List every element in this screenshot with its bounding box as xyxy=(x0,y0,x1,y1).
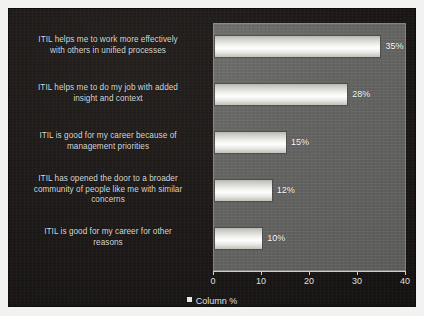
legend-label: Column % xyxy=(196,295,238,307)
bar-value-label-1: 28% xyxy=(352,87,370,101)
tick-label-3: 30 xyxy=(345,275,369,287)
category-label-3-line-0: ITIL has opened the door to a broader xyxy=(12,174,204,185)
bar-series-0-category-0[interactable] xyxy=(215,36,380,57)
bar-value-label-3: 12% xyxy=(277,183,295,197)
chart-figure: ITIL helps me to work more effectively w… xyxy=(0,0,424,316)
category-label-2: ITIL is good for my career because of ma… xyxy=(12,131,204,152)
bar-series-0-category-2[interactable] xyxy=(215,132,286,153)
plot-area: 35% 28% 15% 12% 10% xyxy=(213,23,406,271)
bar-value-label-4: 10% xyxy=(267,231,285,245)
legend-swatch-icon xyxy=(187,297,192,302)
category-label-4: ITIL is good for my career for other rea… xyxy=(12,227,204,248)
category-label-1: ITIL helps me to do my job with added in… xyxy=(12,83,204,104)
tick-label-1: 10 xyxy=(249,275,273,287)
category-label-1-line-1: insight and context xyxy=(12,94,204,105)
category-label-2-line-0: ITIL is good for my career because of xyxy=(12,131,204,142)
chart-legend: Column % xyxy=(8,291,416,307)
bar-series-0-category-4[interactable] xyxy=(215,228,262,249)
bar-value-label-2: 15% xyxy=(291,135,309,149)
category-label-3-line-1: community of people like me with similar xyxy=(12,185,204,196)
tick-label-0: 0 xyxy=(201,275,225,287)
category-label-3: ITIL has opened the door to a broader co… xyxy=(12,174,204,206)
category-label-1-line-0: ITIL helps me to do my job with added xyxy=(12,83,204,94)
category-label-0-line-1: with others in unified processes xyxy=(12,46,204,57)
chart-canvas: ITIL helps me to work more effectively w… xyxy=(8,8,416,307)
category-label-4-line-0: ITIL is good for my career for other xyxy=(12,227,204,238)
bar-series-0-category-3[interactable] xyxy=(215,180,272,201)
category-label-3-line-2: concerns xyxy=(12,195,204,206)
bar-value-label-0: 35% xyxy=(385,39,403,53)
tick-label-2: 20 xyxy=(297,275,321,287)
category-label-4-line-1: reasons xyxy=(12,238,204,249)
category-label-0: ITIL helps me to work more effectively w… xyxy=(12,35,204,56)
bar-series-0-category-1[interactable] xyxy=(215,84,347,105)
category-label-2-line-1: management priorities xyxy=(12,142,204,153)
tick-label-4: 40 xyxy=(393,275,416,287)
category-label-0-line-0: ITIL helps me to work more effectively xyxy=(12,35,204,46)
category-axis: ITIL helps me to work more effectively w… xyxy=(12,23,204,263)
